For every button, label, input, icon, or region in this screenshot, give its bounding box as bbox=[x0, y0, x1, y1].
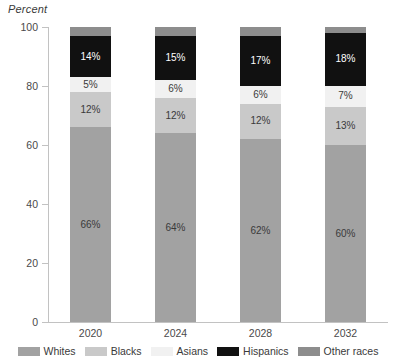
y-tick-label: 80 bbox=[0, 80, 38, 92]
segment-value-label: 12% bbox=[240, 116, 281, 126]
bar-segment-asians[interactable]: 5% bbox=[70, 77, 111, 92]
bar-segment-blacks[interactable]: 13% bbox=[325, 107, 366, 145]
bar-2020[interactable]: 66%12%5%14% bbox=[70, 27, 111, 322]
bar-segment-other-races[interactable] bbox=[70, 27, 111, 36]
legend-label: Other races bbox=[324, 345, 379, 357]
bar-segment-whites[interactable]: 66% bbox=[70, 127, 111, 322]
segment-value-label: 60% bbox=[325, 229, 366, 239]
legend-item-hispanics[interactable]: Hispanics bbox=[217, 345, 289, 357]
legend-item-asians[interactable]: Asians bbox=[151, 345, 209, 357]
segment-value-label: 5% bbox=[70, 80, 111, 90]
bar-segment-hispanics[interactable]: 14% bbox=[70, 36, 111, 77]
segment-value-label: 6% bbox=[155, 84, 196, 94]
y-tick-label: 100 bbox=[0, 21, 38, 33]
x-tick-label-2028: 2028 bbox=[221, 327, 301, 339]
bar-2032[interactable]: 60%13%7%18% bbox=[325, 27, 366, 322]
bar-segment-asians[interactable]: 7% bbox=[325, 86, 366, 107]
bar-segment-asians[interactable]: 6% bbox=[240, 86, 281, 104]
y-tick-mark bbox=[42, 322, 48, 323]
bar-segment-hispanics[interactable]: 15% bbox=[155, 36, 196, 80]
y-tick-label: 0 bbox=[0, 316, 38, 328]
x-tick-label-2032: 2032 bbox=[306, 327, 386, 339]
legend-swatch-icon bbox=[18, 347, 40, 356]
legend-swatch-icon bbox=[151, 347, 173, 356]
segment-value-label: 12% bbox=[155, 111, 196, 121]
bar-segment-blacks[interactable]: 12% bbox=[70, 92, 111, 127]
bar-segment-hispanics[interactable]: 18% bbox=[325, 33, 366, 86]
segment-value-label: 12% bbox=[70, 105, 111, 115]
plot-area: 66%12%5%14%64%12%6%15%62%12%6%17%60%13%7… bbox=[48, 27, 388, 322]
bar-segment-blacks[interactable]: 12% bbox=[155, 98, 196, 133]
legend-item-blacks[interactable]: Blacks bbox=[85, 345, 142, 357]
legend-swatch-icon bbox=[85, 347, 107, 356]
segment-value-label: 64% bbox=[155, 223, 196, 233]
segment-value-label: 17% bbox=[240, 56, 281, 66]
bar-2024[interactable]: 64%12%6%15% bbox=[155, 27, 196, 322]
segment-value-label: 6% bbox=[240, 90, 281, 100]
legend-swatch-icon bbox=[298, 347, 320, 356]
legend-label: Whites bbox=[44, 345, 76, 357]
segment-value-label: 18% bbox=[325, 54, 366, 64]
bar-segment-other-races[interactable] bbox=[325, 27, 366, 33]
legend-item-other-races[interactable]: Other races bbox=[298, 345, 379, 357]
segment-value-label: 7% bbox=[325, 91, 366, 101]
legend-label: Blacks bbox=[111, 345, 142, 357]
x-tick-label-2024: 2024 bbox=[136, 327, 216, 339]
bar-segment-other-races[interactable] bbox=[240, 27, 281, 36]
bar-segment-other-races[interactable] bbox=[155, 27, 196, 36]
bar-segment-asians[interactable]: 6% bbox=[155, 80, 196, 98]
segment-value-label: 14% bbox=[70, 52, 111, 62]
legend-label: Asians bbox=[177, 345, 209, 357]
chart-legend: WhitesBlacksAsiansHispanicsOther races bbox=[0, 345, 396, 357]
y-tick-label: 20 bbox=[0, 257, 38, 269]
legend-label: Hispanics bbox=[243, 345, 289, 357]
y-tick-label: 60 bbox=[0, 139, 38, 151]
segment-value-label: 15% bbox=[155, 53, 196, 63]
bar-segment-whites[interactable]: 64% bbox=[155, 133, 196, 322]
x-tick-label-2020: 2020 bbox=[51, 327, 131, 339]
bar-segment-whites[interactable]: 62% bbox=[240, 139, 281, 322]
y-tick-label: 40 bbox=[0, 198, 38, 210]
legend-item-whites[interactable]: Whites bbox=[18, 345, 76, 357]
segment-value-label: 13% bbox=[325, 121, 366, 131]
x-axis-line bbox=[48, 322, 388, 323]
bar-segment-whites[interactable]: 60% bbox=[325, 145, 366, 322]
y-axis-title: Percent bbox=[8, 3, 47, 15]
legend-swatch-icon bbox=[217, 347, 239, 356]
bar-segment-blacks[interactable]: 12% bbox=[240, 104, 281, 139]
segment-value-label: 66% bbox=[70, 220, 111, 230]
stacked-bar-chart: Percent 020406080100 66%12%5%14%64%12%6%… bbox=[0, 0, 396, 363]
segment-value-label: 62% bbox=[240, 226, 281, 236]
bar-segment-hispanics[interactable]: 17% bbox=[240, 36, 281, 86]
bar-2028[interactable]: 62%12%6%17% bbox=[240, 27, 281, 322]
